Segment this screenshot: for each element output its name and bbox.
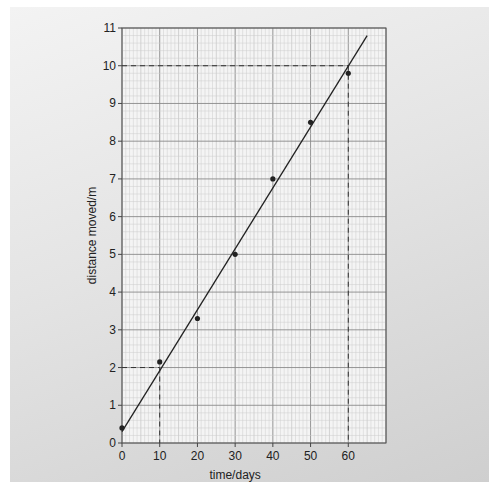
x-tick-label: 50 bbox=[304, 449, 318, 463]
y-tick-label: 7 bbox=[109, 172, 116, 186]
x-tick-label: 30 bbox=[228, 449, 242, 463]
data-point bbox=[346, 71, 351, 76]
x-tick-label: 0 bbox=[119, 449, 126, 463]
x-tick-label: 40 bbox=[266, 449, 280, 463]
y-tick-label: 11 bbox=[104, 21, 117, 35]
data-point bbox=[233, 252, 238, 257]
y-tick-label: 0 bbox=[109, 436, 116, 450]
data-point bbox=[195, 316, 200, 321]
x-axis-label: time/days bbox=[209, 468, 260, 482]
x-tick-label: 20 bbox=[191, 449, 205, 463]
data-point bbox=[157, 359, 162, 364]
y-tick-label: 2 bbox=[109, 361, 116, 375]
y-axis-label: distance moved/m bbox=[85, 187, 99, 284]
y-tick-label: 3 bbox=[109, 323, 116, 337]
graph-paper-chart: 010203040506001234567891011time/daysdist… bbox=[0, 0, 496, 498]
data-point bbox=[308, 120, 313, 125]
y-tick-label: 8 bbox=[109, 134, 116, 148]
x-tick-label: 10 bbox=[153, 449, 167, 463]
data-point bbox=[270, 176, 275, 181]
x-tick-label: 60 bbox=[342, 449, 356, 463]
data-point bbox=[119, 425, 124, 430]
y-tick-label: 5 bbox=[109, 247, 116, 261]
y-tick-label: 9 bbox=[109, 96, 116, 110]
y-tick-label: 4 bbox=[109, 285, 116, 299]
y-tick-label: 10 bbox=[103, 59, 117, 73]
y-tick-label: 1 bbox=[109, 398, 116, 412]
y-tick-label: 6 bbox=[109, 210, 116, 224]
